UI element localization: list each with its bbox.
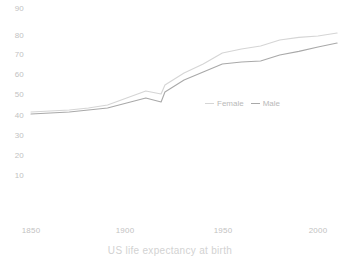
line-chart-plot — [0, 0, 340, 256]
legend-swatch-male — [251, 103, 260, 104]
legend-label-male: Male — [263, 99, 280, 108]
chart-caption: US life expectancy at birth — [0, 245, 340, 256]
legend-label-female: Female — [217, 99, 244, 108]
chart-container: 90 80 70 60 50 40 30 20 10 1850 1900 195… — [0, 0, 340, 256]
legend-swatch-female — [205, 103, 214, 104]
y-tick-20: 20 — [2, 151, 24, 160]
y-tick-90: 90 — [2, 4, 24, 13]
legend-item-male: Male — [251, 99, 280, 108]
x-tick-1950: 1950 — [203, 226, 243, 235]
x-tick-1900: 1900 — [105, 226, 145, 235]
series-female — [31, 33, 337, 112]
y-tick-80: 80 — [2, 31, 24, 40]
x-tick-1850: 1850 — [11, 226, 51, 235]
legend-item-female: Female — [205, 99, 244, 108]
y-tick-10: 10 — [2, 171, 24, 180]
y-tick-40: 40 — [2, 111, 24, 120]
chart-legend: Female Male — [205, 99, 280, 108]
y-tick-70: 70 — [2, 50, 24, 59]
y-tick-50: 50 — [2, 90, 24, 99]
y-tick-30: 30 — [2, 131, 24, 140]
y-tick-60: 60 — [2, 70, 24, 79]
x-tick-2000: 2000 — [298, 226, 338, 235]
series-male — [31, 43, 337, 114]
